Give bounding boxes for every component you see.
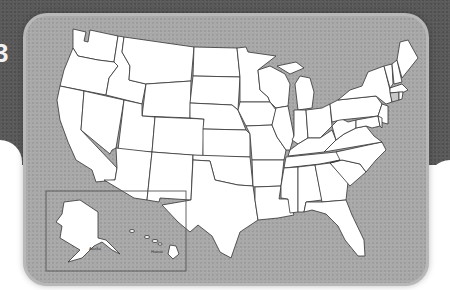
state-rhode-island	[399, 92, 403, 100]
state-montana	[122, 37, 194, 84]
lower-48-states	[57, 29, 418, 258]
state-iowa	[238, 102, 276, 126]
state-florida	[304, 200, 365, 256]
state-hawaii	[130, 230, 180, 260]
state-maine	[397, 40, 418, 78]
state-arkansas	[252, 160, 284, 187]
state-alaska	[56, 200, 120, 262]
us-map: Alaska Hawaii	[0, 0, 450, 290]
state-colorado	[152, 117, 204, 156]
state-connecticut	[390, 92, 399, 102]
label-alaska: Alaska	[89, 246, 102, 251]
state-north-dakota	[193, 47, 240, 77]
state-kansas	[203, 129, 250, 157]
state-indiana	[292, 110, 308, 144]
state-wyoming	[142, 81, 191, 118]
label-hawaii: Hawaii	[151, 249, 163, 254]
